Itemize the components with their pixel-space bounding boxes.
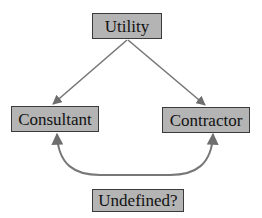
node-undefined: Undefined? [92,189,184,212]
node-consultant-label: Consultant [18,111,92,128]
node-contractor-label: Contractor [170,112,243,129]
node-undefined-label: Undefined? [98,192,177,209]
node-contractor: Contractor [162,107,250,133]
edge-consultant-contractor-loop [57,134,213,175]
edge-utility-consultant [53,40,127,104]
diagram-canvas: Utility Consultant Contractor Undefined? [0,0,262,218]
node-utility: Utility [92,13,162,39]
node-utility-label: Utility [105,18,149,35]
node-consultant: Consultant [11,106,99,132]
edge-utility-contractor [128,40,205,105]
